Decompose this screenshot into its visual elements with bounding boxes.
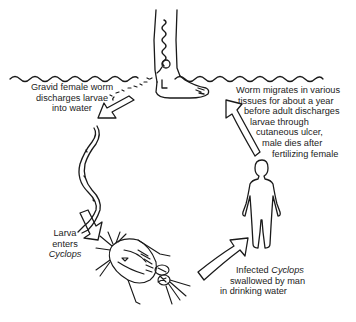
label-larva-line-2: enters xyxy=(44,239,86,250)
label-swallow-line-3: in drinking water xyxy=(220,286,305,297)
label-migrate-line-2: tissues for about a year xyxy=(238,96,340,107)
water-surface xyxy=(10,77,323,82)
cyclops-copepod xyxy=(96,232,190,304)
label-migrate-line-4: larvae through xyxy=(250,117,340,128)
label-discharge-line-3: into water xyxy=(20,103,124,114)
label-migrate-line-7: fertilizing female xyxy=(272,149,340,160)
label-swallow-line-2: swallowed by man xyxy=(230,276,305,287)
label-swallow-line-1-prefix: Infected xyxy=(236,265,271,275)
label-larva-line-1: Larva xyxy=(44,228,86,239)
label-migrate-line-3: before adult discharges xyxy=(244,106,340,117)
label-swallow-line-1-italic: Cyclops xyxy=(271,265,304,275)
label-discharge: Gravid female worm discharges larvae int… xyxy=(20,82,124,114)
label-larva-line-3: Cyclops xyxy=(44,249,86,260)
label-migrate: Worm migrates in various tissues for abo… xyxy=(236,85,340,159)
human-leg-with-worm xyxy=(154,10,209,98)
label-migrate-line-5: cutaneous ulcer, xyxy=(256,127,340,138)
guinea-worm-life-cycle-diagram: Gravid female worm discharges larvae int… xyxy=(0,0,356,322)
label-migrate-line-6: male dies after xyxy=(262,138,340,149)
label-swallow-line-1: Infected Cyclops xyxy=(236,265,305,276)
human-silhouette xyxy=(243,160,281,248)
label-discharge-line-2: discharges larvae xyxy=(20,93,124,104)
label-larva: Larva enters Cyclops xyxy=(44,228,86,260)
label-migrate-line-1: Worm migrates in various xyxy=(236,85,340,96)
label-discharge-line-1: Gravid female worm xyxy=(20,82,124,93)
label-swallow: Infected Cyclops swallowed by man in dri… xyxy=(220,265,305,297)
